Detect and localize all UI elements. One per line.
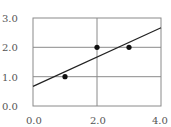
y-tick-label: 2.0: [2, 42, 18, 53]
y-tick-label: 3.0: [2, 13, 18, 24]
data-point: [62, 74, 67, 79]
scatter-chart: 3.0 2.0 1.0 0.0 0.0 2.0 4.0: [0, 0, 171, 127]
y-tick-label: 1.0: [2, 72, 18, 83]
x-tick-label: 0.0: [26, 115, 42, 126]
grid-lines: [33, 18, 161, 106]
x-tick-label: 4.0: [152, 115, 168, 126]
data-point: [94, 45, 99, 50]
y-tick-label: 0.0: [2, 101, 18, 112]
x-axis-ticks: 0.0 2.0 4.0: [26, 115, 168, 126]
x-tick-label: 2.0: [90, 115, 106, 126]
y-axis-ticks: 3.0 2.0 1.0 0.0: [2, 13, 18, 113]
data-point: [126, 45, 131, 50]
